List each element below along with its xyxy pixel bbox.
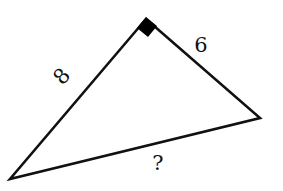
right-leg-label: 6 xyxy=(194,33,207,57)
triangle-figure: 8 6 ? xyxy=(0,0,283,191)
right-angle-marker-icon xyxy=(137,17,157,37)
triangle-diagram: 8 6 ? xyxy=(0,0,283,191)
left-leg-label: 8 xyxy=(48,63,75,89)
triangle-outline xyxy=(10,19,260,179)
hypotenuse-label: ? xyxy=(152,151,163,175)
